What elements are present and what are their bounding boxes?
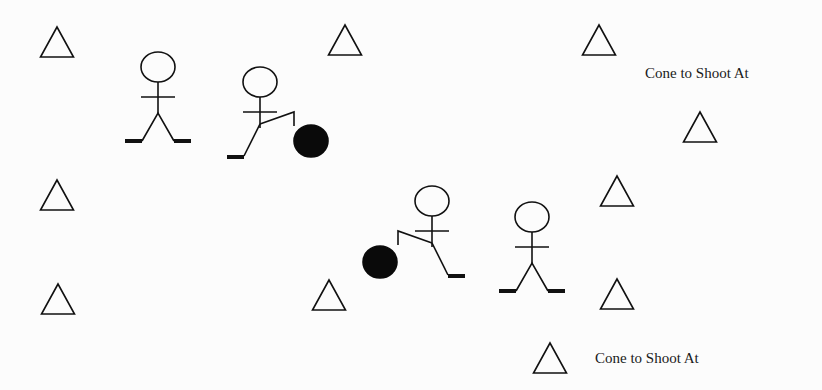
foot-icon bbox=[548, 289, 565, 293]
cone-icon bbox=[42, 284, 75, 314]
cone-icon bbox=[41, 180, 74, 210]
cone-to-shoot-at-label-bottom: Cone to Shoot At bbox=[595, 350, 699, 367]
standing-player bbox=[499, 202, 565, 293]
cone-icon bbox=[534, 343, 567, 373]
cone-icon bbox=[601, 279, 634, 309]
foot-icon bbox=[227, 155, 244, 159]
head-icon bbox=[515, 202, 549, 232]
head-icon bbox=[415, 186, 449, 216]
cone-icon bbox=[329, 25, 362, 55]
kicking-player bbox=[363, 186, 465, 278]
standing-player bbox=[125, 52, 191, 143]
cone-icon bbox=[684, 112, 717, 142]
foot-icon bbox=[174, 139, 191, 143]
ball-icon bbox=[363, 246, 397, 278]
cone-to-shoot-at-label-top: Cone to Shoot At bbox=[645, 65, 749, 82]
head-icon bbox=[141, 52, 175, 82]
diagram-canvas bbox=[0, 0, 822, 390]
head-icon bbox=[243, 67, 277, 97]
cone-icon bbox=[41, 27, 74, 57]
foot-icon bbox=[499, 289, 516, 293]
drill-diagram: Cone to Shoot At Cone to Shoot At bbox=[0, 0, 822, 390]
cone-icon bbox=[583, 25, 616, 55]
foot-icon bbox=[448, 274, 465, 278]
cone-icon bbox=[601, 176, 634, 206]
cone-icon bbox=[313, 280, 346, 310]
ball-icon bbox=[294, 125, 328, 157]
foot-icon bbox=[125, 139, 142, 143]
kicking-player bbox=[227, 67, 328, 159]
